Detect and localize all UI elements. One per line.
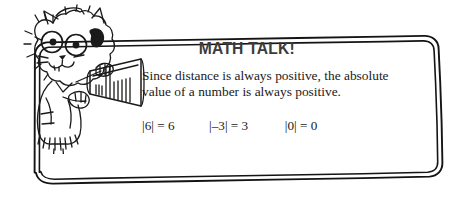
math-talk-callout-page: MATH TALK! Since distance is always posi… bbox=[0, 0, 457, 209]
cat-hem-fringe bbox=[38, 135, 78, 150]
cat-pupil-left bbox=[50, 39, 57, 46]
cat-dark-marking bbox=[89, 28, 104, 47]
megaphone-grip-lines bbox=[96, 78, 130, 102]
cat-leg-left bbox=[53, 149, 54, 154]
cat-illustration-svg bbox=[8, 2, 150, 154]
math-talk-body-text: Since distance is always positive, the a… bbox=[142, 68, 394, 101]
megaphone-band bbox=[106, 66, 110, 98]
math-talk-title: MATH TALK! bbox=[152, 40, 384, 59]
cat-fur-tuft bbox=[24, 31, 34, 57]
cat-fur-tuft bbox=[65, 5, 90, 14]
cat-pupil-right bbox=[73, 42, 80, 49]
cat-with-megaphone-icon bbox=[8, 2, 150, 154]
cat-arm-lower bbox=[63, 97, 86, 101]
equation-row: |6| = 6 |–3| = 3 |0| = 0 bbox=[142, 118, 394, 134]
cat-mouth bbox=[49, 60, 74, 68]
equation-abs-neg-3: |–3| = 3 bbox=[209, 118, 248, 134]
cat-shirt-fold bbox=[41, 112, 54, 124]
callout-content: MATH TALK! Since distance is always posi… bbox=[142, 40, 394, 134]
cat-leg-right bbox=[63, 149, 64, 154]
cat-nose bbox=[59, 55, 66, 60]
equation-abs-0: |0| = 0 bbox=[285, 118, 318, 134]
